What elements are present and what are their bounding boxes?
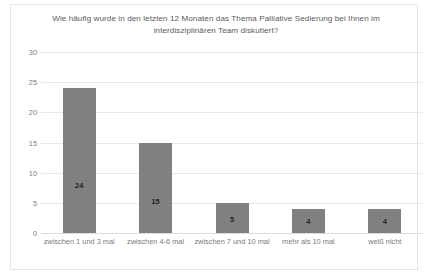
bar-value-label: 4 bbox=[292, 217, 325, 226]
x-axis: zwischen 1 und 3 malzwischen 4-6 malzwis… bbox=[41, 237, 423, 267]
bar-value-label: 5 bbox=[216, 215, 249, 224]
x-axis-tick-label: zwischen 4-6 mal bbox=[117, 237, 193, 247]
y-axis-tick-label: 25 bbox=[15, 78, 37, 87]
chart-container: Wie häufig wurde in den letzten 12 Monat… bbox=[10, 4, 418, 270]
y-axis-tick-label: 20 bbox=[15, 108, 37, 117]
y-axis-tick-label: 15 bbox=[15, 138, 37, 147]
x-axis-tick-label: weiß nicht bbox=[347, 237, 423, 247]
bar-value-label: 15 bbox=[139, 197, 172, 206]
bar[interactable] bbox=[63, 88, 96, 233]
chart-title: Wie häufig wurde in den letzten 12 Monat… bbox=[41, 13, 391, 37]
bar-column[interactable]: 4 bbox=[292, 52, 325, 233]
y-axis-tick-label: 30 bbox=[15, 48, 37, 57]
bar-column[interactable]: 24 bbox=[63, 52, 96, 233]
x-axis-tick-label: zwischen 7 und 10 mal bbox=[194, 237, 270, 247]
bar-column[interactable]: 4 bbox=[368, 52, 401, 233]
x-axis-tick-label: mehr als 10 mal bbox=[270, 237, 346, 247]
y-axis-tick-label: 0 bbox=[15, 229, 37, 238]
bar-value-label: 24 bbox=[63, 181, 96, 190]
y-axis: 051015202530 bbox=[11, 52, 37, 233]
bar-value-label: 4 bbox=[368, 217, 401, 226]
y-axis-tick-label: 10 bbox=[15, 168, 37, 177]
x-axis-tick-label: zwischen 1 und 3 mal bbox=[41, 237, 117, 247]
gridline bbox=[41, 233, 423, 234]
bar-column[interactable]: 5 bbox=[216, 52, 249, 233]
plot-area: 2415544 bbox=[41, 52, 423, 233]
bar[interactable] bbox=[139, 143, 172, 234]
bar-column[interactable]: 15 bbox=[139, 52, 172, 233]
y-axis-tick-label: 5 bbox=[15, 198, 37, 207]
